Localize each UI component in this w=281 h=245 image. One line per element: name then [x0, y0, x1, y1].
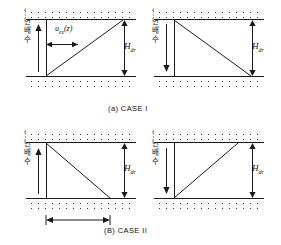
hdr-label: Hdr	[124, 41, 136, 53]
caption-case2: (B) CASE II	[104, 226, 147, 235]
bottom-sand-layer	[26, 77, 136, 89]
pressure-distribution-diagonal	[174, 143, 252, 198]
bottom-sand-layer	[154, 199, 264, 210]
pressure-leader-arrow	[46, 34, 78, 41]
hdr-label: Hdr	[124, 163, 136, 175]
bottom-sand-layer	[154, 77, 264, 89]
uex-argument: (z)	[64, 24, 72, 33]
hdr-label: Hdr	[252, 41, 264, 53]
panel-case1-right: 일면배수 Hdr	[150, 8, 266, 98]
excess-pore-pressure-label: uex(z)	[55, 24, 72, 35]
flow-direction-arrow-up	[34, 148, 43, 194]
flow-direction-arrow-up	[34, 24, 43, 72]
top-sand-layer	[154, 130, 264, 142]
hdr-subscript: dr	[131, 169, 136, 175]
width-dimension-arrow	[42, 211, 114, 221]
hdr-subscript: dr	[259, 169, 264, 175]
flow-direction-arrow-down	[162, 148, 171, 194]
caption-case1: (a) CASE I	[108, 104, 148, 113]
top-sand-layer	[26, 8, 136, 19]
flow-direction-arrow-down	[162, 24, 171, 72]
bottom-sand-layer	[26, 199, 136, 210]
panel-case1-left: 일면배수 uex(z)	[22, 8, 138, 98]
pressure-distribution-diagonal	[174, 20, 252, 76]
pressure-distribution-diagonal	[46, 143, 124, 198]
hdr-subscript: dr	[259, 47, 264, 53]
top-sand-layer	[154, 8, 264, 19]
panel-case2-right: 일면배수 Hdr	[150, 130, 266, 230]
panel-case2-left: 일면배수 Hdr	[22, 130, 138, 230]
hdr-label: Hdr	[252, 163, 264, 175]
top-sand-layer	[26, 130, 136, 142]
hdr-subscript: dr	[131, 47, 136, 53]
consolidation-figure: 일면배수 uex(z)	[0, 0, 281, 245]
